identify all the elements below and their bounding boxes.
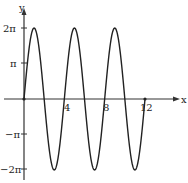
x-axis-arrow-icon (173, 97, 180, 102)
x-axis-label: x (181, 94, 187, 105)
y-tick-label-neg-pi: −π (5, 129, 20, 140)
y-tick-label-pi: π (10, 58, 17, 69)
y-tick-label-2pi: 2π (3, 23, 16, 34)
y-axis-label: y (18, 2, 25, 13)
chart: y x 2π π −π −2π 4 8 12 (0, 0, 188, 183)
x-tick-label-12: 12 (140, 102, 153, 113)
x-tick-label-8: 8 (103, 102, 109, 113)
x-tick-label-4: 4 (64, 102, 70, 113)
y-tick-label-neg-2pi: −2π (0, 164, 22, 175)
